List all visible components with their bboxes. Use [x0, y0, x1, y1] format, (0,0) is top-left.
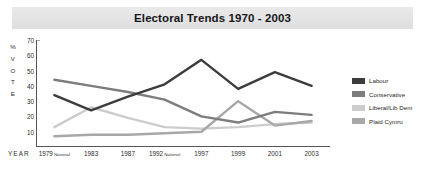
- y-tick-label: 50: [18, 67, 34, 74]
- legend-label: Liberal/Lib Dem: [369, 104, 412, 111]
- x-tick-note: National: [54, 152, 70, 157]
- legend-swatch-icon: [352, 118, 365, 124]
- x-tick-label: 1997: [194, 150, 208, 157]
- x-axis-tick-labels: 1979National198319871992National19971999…: [36, 150, 330, 166]
- legend-item[interactable]: Liberal/Lib Dem: [352, 101, 422, 115]
- y-tick-label: 60: [18, 52, 34, 59]
- x-tick-note: National: [164, 152, 180, 157]
- x-tick-label: 1983: [84, 150, 98, 157]
- title-banner: Electoral Trends 1970 - 2003: [12, 7, 413, 29]
- legend-swatch-icon: [352, 105, 365, 111]
- legend-item[interactable]: Plaid Cymru: [352, 115, 422, 129]
- y-tick-label: 40: [18, 82, 34, 89]
- y-tick-label: 70: [18, 37, 34, 44]
- y-axis-tick-labels: 10203040506070: [18, 40, 34, 147]
- x-tick-label: 1987: [121, 150, 135, 157]
- legend-label: Plaid Cymru: [369, 118, 403, 125]
- y-tick-label: 30: [18, 98, 34, 105]
- chart-figure: Electoral Trends 1970 - 2003 %VOTE 10203…: [0, 0, 425, 172]
- y-tick-label: 10: [18, 128, 34, 135]
- x-axis-title: YEAR: [8, 150, 30, 157]
- series-line-conservative: [54, 80, 311, 123]
- plot-area: [36, 40, 330, 147]
- y-tick-label: 20: [18, 113, 34, 120]
- x-tick-label: 1992National: [149, 150, 180, 157]
- x-tick-label: 1979National: [39, 150, 70, 157]
- x-tick-label: 1999: [231, 150, 245, 157]
- x-tick-label: 2001: [268, 150, 282, 157]
- legend-item[interactable]: Labour: [352, 74, 422, 88]
- series-line-plaid-cymru: [54, 101, 311, 136]
- legend-label: Conservative: [369, 91, 405, 98]
- page-title: Electoral Trends 1970 - 2003: [12, 7, 413, 29]
- chart-canvas: [36, 40, 330, 147]
- legend-label: Labour: [369, 77, 388, 84]
- x-tick-label: 2003: [305, 150, 319, 157]
- legend-swatch-icon: [352, 91, 365, 97]
- legend-item[interactable]: Conservative: [352, 88, 422, 102]
- legend-swatch-icon: [352, 78, 365, 84]
- chart-legend: LabourConservativeLiberal/Lib DemPlaid C…: [352, 74, 422, 128]
